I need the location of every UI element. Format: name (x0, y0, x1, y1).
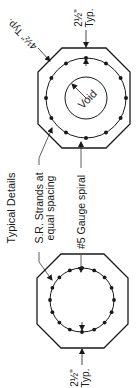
hollow-pile-section: Void (38, 30, 130, 148)
typical-details-drawing: Void 4½" Typ. 2½" Typ. Typical Details S… (0, 0, 138, 388)
spiral-label: #5 Gauge spiral (75, 175, 87, 249)
corner-chamfer-label: 4½" Typ. (4, 17, 39, 52)
bottom-cover-typ: Typ. (80, 369, 91, 388)
top-cover-value: 2½" (73, 9, 84, 27)
strands-label-line2: equal spacing (44, 175, 56, 240)
solid-pile-section (37, 254, 128, 365)
bottom-cover-value: 2½" (69, 369, 80, 387)
top-cover-typ: Typ. (84, 9, 95, 28)
typical-details-title: Typical Details (5, 172, 17, 243)
